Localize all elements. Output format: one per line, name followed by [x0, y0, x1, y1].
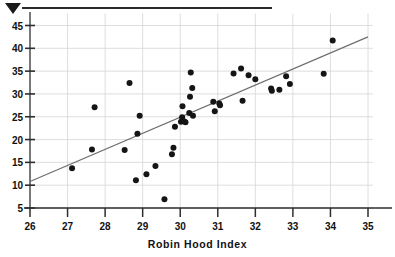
y-axis-tick-label: 45: [2, 20, 23, 31]
x-axis-tick-label: 32: [250, 221, 261, 232]
data-point: [330, 38, 336, 44]
data-point: [269, 88, 275, 94]
x-axis-tick-label: 26: [24, 221, 35, 232]
data-point: [152, 163, 158, 169]
y-axis-tick-label: 30: [2, 88, 23, 99]
data-point: [231, 70, 237, 76]
data-point: [283, 73, 289, 79]
data-point: [189, 85, 195, 91]
y-axis-tick-label: 5: [2, 203, 23, 214]
data-point: [143, 171, 149, 177]
data-point: [182, 119, 188, 125]
data-points-group: [69, 38, 336, 203]
x-axis-tick-label: 34: [325, 221, 336, 232]
x-axis-tick-label: 35: [362, 221, 373, 232]
data-point: [217, 102, 223, 108]
x-axis-tick-label: 28: [100, 221, 111, 232]
x-axis-tick-label: 31: [212, 221, 223, 232]
data-point: [188, 69, 194, 75]
data-point: [137, 113, 143, 119]
data-point: [92, 104, 98, 110]
y-axis-tick-label: 15: [2, 157, 23, 168]
data-point: [134, 131, 140, 137]
axis-lines-group: [24, 12, 392, 209]
data-point: [69, 165, 75, 171]
data-point: [287, 81, 293, 87]
x-axis-tick-label: 30: [175, 221, 186, 232]
data-point: [127, 80, 133, 86]
data-point: [212, 108, 218, 114]
data-point: [246, 72, 252, 78]
y-axis-tick-label: 25: [2, 111, 23, 122]
data-point: [238, 65, 244, 71]
data-point: [240, 98, 246, 104]
data-point: [276, 87, 282, 93]
trendline: [30, 37, 368, 182]
data-point: [179, 103, 185, 109]
data-point: [252, 76, 258, 82]
data-point: [170, 145, 176, 151]
plot-canvas: [0, 0, 395, 257]
data-point: [190, 113, 196, 119]
y-axis-tick-label: 35: [2, 66, 23, 77]
scatter-plot-figure: 51015202530354045 26272829303132333435 R…: [0, 0, 395, 257]
data-point: [133, 177, 139, 183]
x-axis-title: Robin Hood Index: [0, 238, 395, 250]
y-axis-tick-label: 40: [2, 43, 23, 54]
data-point: [169, 151, 175, 157]
data-point: [161, 196, 167, 202]
data-point: [122, 147, 128, 153]
x-axis-tick-label: 33: [287, 221, 298, 232]
data-point: [187, 94, 193, 100]
data-point: [321, 71, 327, 77]
x-axis-tick-label: 27: [62, 221, 73, 232]
axis-ticks-group: [25, 26, 368, 218]
gridlines-group: [30, 14, 373, 209]
data-point: [210, 99, 216, 105]
y-axis-tick-label: 10: [2, 180, 23, 191]
data-point: [172, 124, 178, 130]
data-point: [89, 147, 95, 153]
y-axis-tick-label: 20: [2, 134, 23, 145]
x-axis-tick-label: 29: [137, 221, 148, 232]
